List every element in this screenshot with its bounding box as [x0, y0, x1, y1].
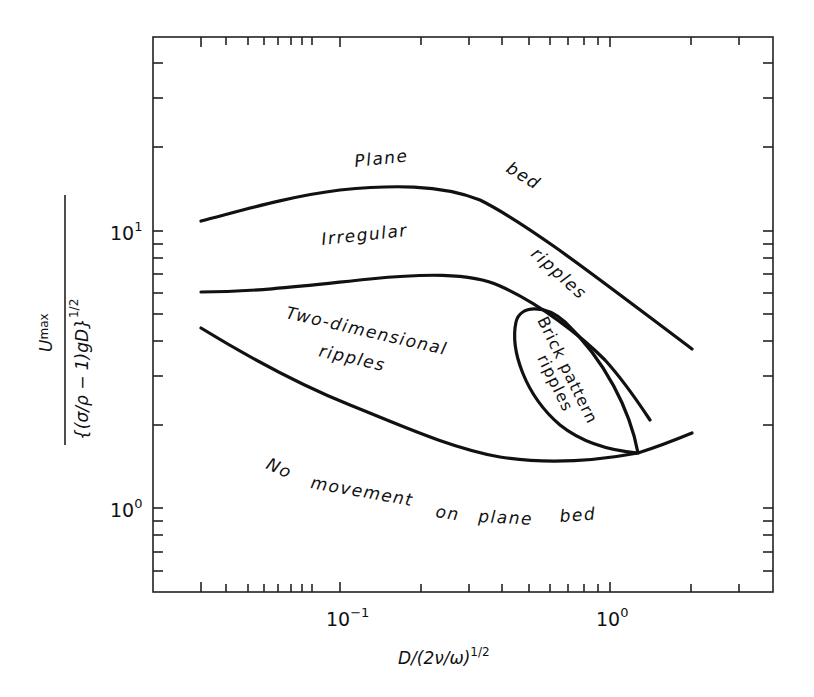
plane-bed-boundary-curve	[201, 187, 692, 349]
x-tick-label-1: 10−1	[326, 605, 369, 630]
label-no-movement-5: bed	[559, 503, 597, 526]
label-irregular: Irregular	[320, 220, 408, 249]
y-axis-label: Umax {(σ/ρ − 1)gD}1/2	[36, 195, 92, 445]
label-ripples-lower: ripples	[317, 340, 388, 375]
plot-frame	[153, 37, 773, 592]
label-no-movement-4: plane	[477, 506, 534, 529]
label-bed: bed	[503, 157, 545, 193]
label-plane: Plane	[353, 145, 409, 171]
y-axis-ticks-left	[153, 63, 163, 571]
y-axis-label-denominator: {(σ/ρ − 1)gD}1/2	[67, 299, 92, 440]
label-no-movement-1: No	[263, 453, 295, 482]
label-ripples-upper: ripples	[527, 243, 591, 303]
y-tick-label-2: 100	[110, 496, 142, 521]
x-axis-label: D/(2ν/ω)1/2	[398, 645, 490, 668]
x-tick-label-2: 100	[596, 605, 628, 630]
x-axis-ticks-bottom	[201, 582, 739, 592]
label-no-movement-2: movement	[309, 472, 415, 510]
y-axis-ticks-right	[763, 63, 773, 571]
label-no-movement-3: on	[434, 501, 461, 524]
ripple-regime-chart: Plane bed Irregular ripples Two-dimensio…	[0, 0, 814, 697]
y-tick-label-1: 101	[110, 219, 142, 244]
x-axis-ticks-top	[201, 37, 739, 47]
y-axis-label-numerator: Umax	[36, 313, 56, 352]
